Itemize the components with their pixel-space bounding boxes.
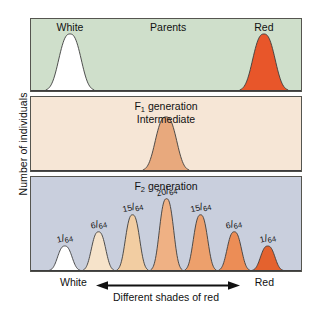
f2-title-subscript: 2 — [141, 185, 145, 194]
label-f1-intermediate: Intermediate — [137, 113, 195, 125]
fraction-denominator: 64 — [168, 186, 178, 197]
x-axis-left-label: White — [60, 276, 87, 288]
f2-curve-6-fraction-label: 6/64 — [225, 217, 243, 231]
fraction-denominator: 64 — [202, 203, 212, 214]
label-red-parent: Red — [254, 21, 273, 33]
f2-curve-2-fraction-label: 6/64 — [89, 217, 107, 231]
fraction-denominator: 64 — [267, 234, 277, 245]
fraction-denominator: 64 — [134, 203, 144, 214]
polygenic-inheritance-figure: Number of individuals White Parents Red … — [0, 0, 316, 310]
panel-parents: White Parents Red — [30, 18, 302, 92]
panel-f2: F2 generation 1/646/6415/6420/6415/646/6… — [30, 176, 302, 272]
panels-container: White Parents Red F1 generation Intermed… — [30, 18, 302, 272]
panel-f1: F1 generation Intermediate — [30, 96, 302, 172]
fraction-denominator: 64 — [97, 220, 107, 231]
x-axis-right-label: Red — [255, 276, 274, 288]
label-parents: Parents — [150, 21, 186, 33]
f2-curve-7-fraction-label: 1/64 — [259, 231, 277, 245]
x-axis-caption: Different shades of red — [30, 291, 302, 303]
x-axis-row: White Red — [30, 276, 302, 290]
fraction-denominator: 64 — [64, 234, 74, 245]
double-headed-arrow-icon — [96, 280, 240, 291]
label-white-parent: White — [57, 21, 84, 33]
f2-curve-1-fraction-label: 1/64 — [56, 231, 74, 245]
y-axis-label: Number of individuals — [17, 59, 29, 229]
f1-title-rest: generation — [145, 100, 198, 112]
label-f1-generation: F1 generation — [134, 100, 197, 114]
